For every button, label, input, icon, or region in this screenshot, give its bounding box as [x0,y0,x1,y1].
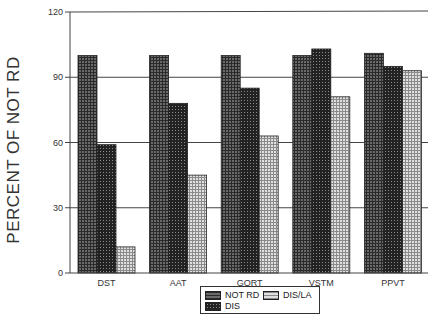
swatch-dis-icon [205,302,221,311]
y-tick-label: 60 [53,138,63,148]
bar-not-rd-gort [221,56,240,274]
swatch-not-rd-icon [205,291,221,300]
bar-dis-la-ppvt [402,71,421,273]
bar-dis-la-aat [188,175,207,273]
bar-not-rd-dst [78,56,97,274]
y-axis: 0306090120 [48,7,70,278]
y-axis-label: PERCENT OF NOT RD [4,56,24,243]
bar-dis-vstm [312,49,331,273]
x-tick-label: PPVT [381,278,405,288]
swatch-dis-la-icon [263,291,279,300]
bar-dis-gort [240,88,259,273]
bar-dis-la-gort [259,136,278,273]
x-tick-label: DST [98,278,117,288]
legend-item-dis-la: DIS/LA [263,290,312,300]
x-tick-label: AAT [170,278,187,288]
legend-label: NOT RD [225,290,259,300]
bar-dis-ppvt [383,66,402,273]
y-tick-label: 0 [58,268,63,278]
bar-not-rd-aat [150,56,169,274]
bar-dis-aat [169,103,188,273]
bar-dis-la-vstm [331,97,350,273]
legend-label: DIS/LA [283,290,312,300]
y-tick-label: 90 [53,72,63,82]
legend-item-dis: DIS [205,301,240,311]
bar-not-rd-ppvt [364,53,383,273]
gridline [70,11,428,12]
bar-dis-la-dst [116,247,135,273]
y-tick-label: 30 [53,203,63,213]
bar-chart: 0306090120 DSTAATGORTVSTMPPVT [0,0,442,326]
bar-not-rd-vstm [293,56,312,274]
bar-dis-dst [97,145,116,273]
bars [78,49,421,273]
legend-item-not-rd: NOT RD [205,290,259,300]
legend-label: DIS [225,301,240,311]
y-tick-label: 120 [48,7,63,17]
legend: NOT RD DIS/LA DIS [200,286,320,314]
